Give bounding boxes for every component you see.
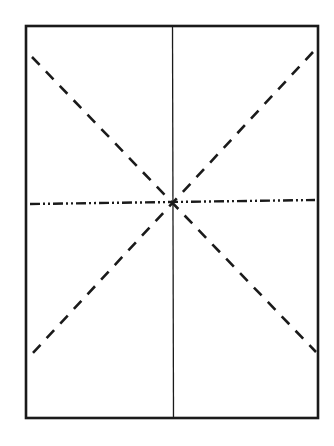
fold-line-diagram [0, 0, 334, 446]
background [0, 0, 334, 446]
